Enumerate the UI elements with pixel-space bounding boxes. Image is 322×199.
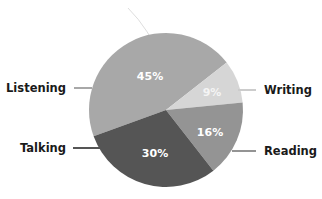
slice-label-listening: 45% [137,70,163,83]
category-label-talking: Talking [20,141,66,155]
category-label-reading: Reading [264,144,317,158]
category-label-listening: Listening [6,81,66,95]
slice-label-talking: 30% [142,147,168,160]
slice-label-writing: 9% [203,86,222,99]
pie-slices [89,33,243,187]
pie-chart: 45% 9% 16% 30% Listening Talking Writing… [0,0,322,199]
slice-label-reading: 16% [197,126,223,139]
category-label-writing: Writing [264,83,312,97]
